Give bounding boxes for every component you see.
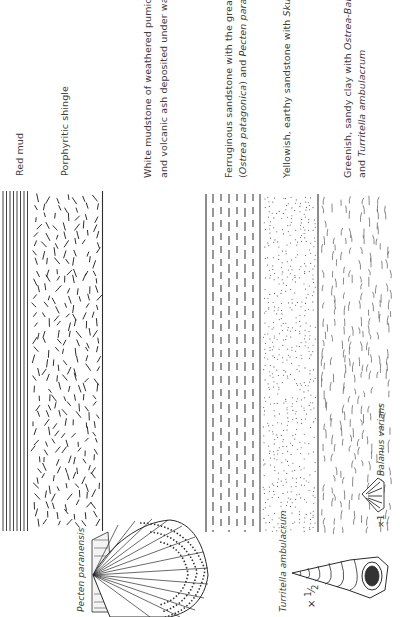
red-mud-band [3,191,28,531]
label-ferruginous-line2: (Ostrea patagonica) and Pecten paranensi… [237,0,248,178]
yellowish-sandstone-band [263,197,316,532]
balanus-scale: ×1 [376,515,387,528]
label-pecten-paranensis: Pecten paranensis [76,527,87,612]
label-greenish-clay-line2: and Turritella ambulacrum [356,50,367,178]
label-red-mud: Red mud [14,133,25,176]
label-porphyritic-shingle: Porphyritic shingle [59,86,70,176]
balanus-barnacle-illustration [362,478,384,512]
label-balanus-varians: Balanus varians [376,403,387,476]
turritella-scale: × 1⁄2 [304,585,320,608]
label-white-mudstone-line1: White mudstone of weathered pumice [142,0,153,178]
label-yellowish-sandstone: Yellowish, earthy sandstone with Skutell… [281,0,292,178]
label-ferruginous-line1: Ferruginous sandstone with the great oys… [223,0,234,178]
label-greenish-clay-line1: Greenish, sandy clay with Ostrea-Balanus… [342,0,353,178]
ferruginous-sandstone-band [206,194,253,532]
label-white-mudstone-line2: and volcanic ash deposited under water [158,0,169,178]
pecten-shell-illustration [92,519,208,617]
label-turritella-ambulacrum: Turritella ambulacrum [278,510,289,612]
porphyritic-shingle-band [31,194,102,527]
